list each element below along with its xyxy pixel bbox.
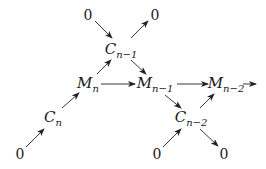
- arrow-zero-to-cn2: [163, 129, 181, 147]
- node-subscript: n−1: [152, 83, 173, 94]
- arrow-zero-to-cn1: [95, 21, 112, 38]
- node-zero-bottom-left: 0: [16, 147, 25, 161]
- node-c-n-minus-1: Cn−1: [105, 41, 138, 60]
- node-c-n-minus-2: Cn−2: [175, 109, 208, 128]
- arrow-cn1-to-zero: [131, 21, 148, 38]
- node-zero-top-right: 0: [151, 8, 160, 22]
- arrow-cn2-to-zero: [200, 129, 218, 146]
- node-subscript: n−1: [116, 49, 137, 60]
- arrow-mn1-to-cn2: [165, 95, 181, 108]
- arrow-cn1-to-mn1: [131, 60, 146, 74]
- node-subscript: n: [56, 117, 62, 128]
- node-zero-bottom-right: 0: [220, 147, 229, 161]
- node-m-n-minus-1: Mn−1: [137, 75, 174, 94]
- node-subscript: n: [92, 83, 98, 94]
- node-zero-top-left: 0: [84, 8, 93, 22]
- arrow-cn-to-mn: [62, 93, 79, 108]
- node-subscript: n−2: [223, 83, 244, 94]
- node-symbol: C: [44, 108, 55, 126]
- node-m-n-minus-2: Mn−2: [208, 75, 245, 94]
- node-subscript: n−2: [186, 117, 207, 128]
- arrow-zero-to-cn: [26, 129, 44, 147]
- node-symbol: C: [175, 108, 186, 126]
- node-symbol: M: [77, 74, 92, 92]
- node-m-n: Mn: [77, 75, 99, 94]
- arrow-mn-to-cn1: [97, 60, 111, 74]
- node-symbol: M: [208, 74, 223, 92]
- node-symbol: C: [105, 40, 116, 58]
- node-symbol: M: [137, 74, 152, 92]
- node-c-n: Cn: [44, 109, 62, 128]
- node-zero-bottom-middle: 0: [153, 147, 162, 161]
- arrow-cn2-to-mn2: [200, 94, 214, 108]
